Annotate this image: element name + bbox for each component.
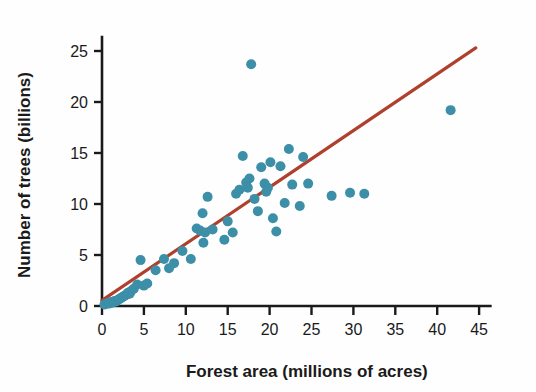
data-point xyxy=(327,191,337,201)
data-point xyxy=(284,144,294,154)
x-axis-tick-label: 30 xyxy=(345,321,363,338)
x-axis-title: Forest area (millions of acres) xyxy=(186,362,428,381)
data-point xyxy=(238,151,248,161)
x-axis-tick-label: 40 xyxy=(428,321,446,338)
x-axis-tick-label: 15 xyxy=(219,321,237,338)
data-point xyxy=(223,216,233,226)
y-axis-tick-label: 20 xyxy=(70,94,88,111)
y-axis-title: Number of trees (billions) xyxy=(15,72,34,278)
x-axis-tick-label: 0 xyxy=(98,321,107,338)
x-axis-tick-label: 20 xyxy=(261,321,279,338)
plot-canvas: 0510152025051015202530354045Forest area … xyxy=(0,0,536,392)
data-point xyxy=(263,183,273,193)
data-point xyxy=(228,228,238,238)
regression-trendline xyxy=(102,48,476,300)
data-point xyxy=(359,189,369,199)
data-point xyxy=(208,225,218,235)
data-point xyxy=(151,265,161,275)
data-point xyxy=(295,201,305,211)
data-point xyxy=(159,254,169,264)
data-point xyxy=(280,198,290,208)
data-point xyxy=(265,157,275,167)
data-point xyxy=(198,208,208,218)
data-point xyxy=(136,255,146,265)
data-point xyxy=(268,213,278,223)
data-point xyxy=(253,206,263,216)
data-point xyxy=(169,258,179,268)
data-point xyxy=(250,194,260,204)
data-point xyxy=(243,183,253,193)
data-point xyxy=(244,174,254,184)
data-point xyxy=(246,59,256,69)
data-point xyxy=(287,180,297,190)
y-axis-tick-label: 5 xyxy=(79,247,88,264)
data-point xyxy=(198,238,208,248)
data-point xyxy=(271,227,281,237)
y-axis-tick-label: 15 xyxy=(70,145,88,162)
data-point xyxy=(303,179,313,189)
y-axis-tick-label: 25 xyxy=(70,43,88,60)
scatter-plot-figure: 0510152025051015202530354045Forest area … xyxy=(0,0,536,392)
data-point xyxy=(142,279,152,289)
x-axis-tick-label: 35 xyxy=(386,321,404,338)
data-point xyxy=(256,162,266,172)
x-axis-tick-label: 25 xyxy=(303,321,321,338)
data-point xyxy=(203,192,213,202)
x-axis-tick-label: 5 xyxy=(139,321,148,338)
data-point xyxy=(446,105,456,115)
data-point xyxy=(186,254,196,264)
data-point xyxy=(345,188,355,198)
x-axis-tick-label: 45 xyxy=(470,321,488,338)
data-point xyxy=(298,152,308,162)
x-axis-tick-label: 10 xyxy=(177,321,195,338)
data-point xyxy=(219,235,229,245)
data-point xyxy=(177,246,187,256)
y-axis-tick-label: 10 xyxy=(70,196,88,213)
data-point xyxy=(275,161,285,171)
y-axis-tick-label: 0 xyxy=(79,298,88,315)
